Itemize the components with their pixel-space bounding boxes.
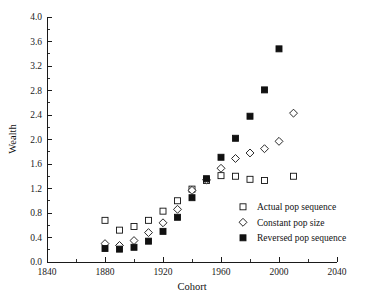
data-point xyxy=(233,173,239,179)
legend-label-3: Reversed pop sequence xyxy=(257,233,346,243)
data-point xyxy=(247,113,253,119)
data-point xyxy=(146,238,152,244)
y-tick-label: 2.8 xyxy=(30,86,42,96)
data-point xyxy=(233,135,239,141)
data-point xyxy=(218,154,224,160)
data-point xyxy=(160,228,166,234)
x-tick-label: 2040 xyxy=(328,267,347,277)
x-tick-label: 1880 xyxy=(96,267,115,277)
y-tick-label: 0.4 xyxy=(30,233,42,243)
data-point xyxy=(276,46,282,52)
y-axis-title: Wealth xyxy=(7,124,18,154)
data-point xyxy=(262,87,268,93)
y-tick-label: 2.0 xyxy=(30,135,42,145)
x-tick-label: 1960 xyxy=(212,267,231,277)
data-point xyxy=(117,246,123,252)
y-tick-label: 1.6 xyxy=(30,159,42,169)
y-tick-label: 0.8 xyxy=(30,208,42,218)
y-tick-label: 2.4 xyxy=(30,110,42,120)
legend-label-1: Actual pop sequence xyxy=(257,202,336,212)
x-tick-label: 1840 xyxy=(38,267,57,277)
data-point xyxy=(262,178,268,184)
x-tick-label: 1920 xyxy=(154,267,173,277)
legend-marker-1 xyxy=(240,204,246,210)
data-point xyxy=(175,198,181,204)
data-point xyxy=(204,176,210,182)
data-point xyxy=(291,173,297,179)
y-tick-label: 3.2 xyxy=(30,61,42,71)
legend-label-2: Constant pop size xyxy=(257,218,325,228)
data-point xyxy=(117,227,123,233)
y-tick-label: 3.6 xyxy=(30,37,42,47)
data-point xyxy=(102,217,108,223)
chart-canvas: 0.00.40.81.21.62.02.42.83.23.64.0 184018… xyxy=(0,0,392,308)
data-point xyxy=(131,223,137,229)
x-tick-label: 2000 xyxy=(270,267,289,277)
data-point xyxy=(175,214,181,220)
legend-marker-3 xyxy=(240,235,246,241)
data-point xyxy=(146,217,152,223)
y-tick-label: 0.0 xyxy=(30,257,42,267)
scatter-chart-figure: 0.00.40.81.21.62.02.42.83.23.64.0 184018… xyxy=(0,0,392,308)
data-point xyxy=(189,195,195,201)
y-tick-label: 4.0 xyxy=(30,12,42,22)
data-point xyxy=(131,244,137,250)
y-tick-label: 1.2 xyxy=(30,184,42,194)
x-axis-title: Cohort xyxy=(177,281,206,292)
data-point xyxy=(247,176,253,182)
data-point xyxy=(160,208,166,214)
data-point xyxy=(102,246,108,252)
data-point xyxy=(218,173,224,179)
x-axis-tick-labels: 184018801920196020002040 xyxy=(38,267,347,277)
y-axis-tick-labels: 0.00.40.81.21.62.02.42.83.23.64.0 xyxy=(30,12,42,267)
